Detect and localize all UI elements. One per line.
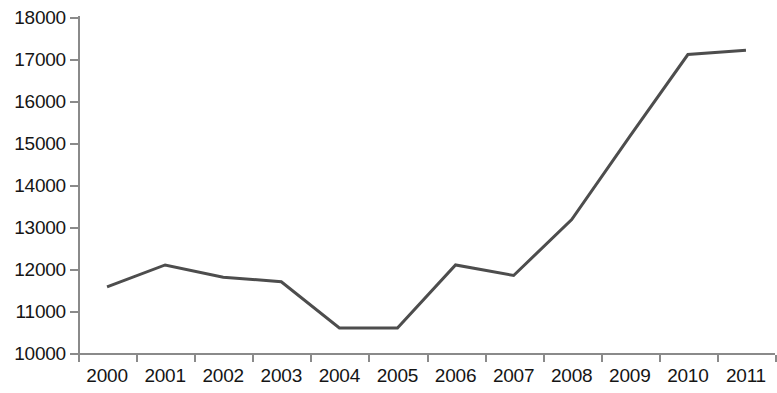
plot-area: [0, 0, 777, 393]
line-chart: 1000011000120001300014000150001600017000…: [0, 0, 777, 393]
data-series-line: [107, 50, 746, 328]
